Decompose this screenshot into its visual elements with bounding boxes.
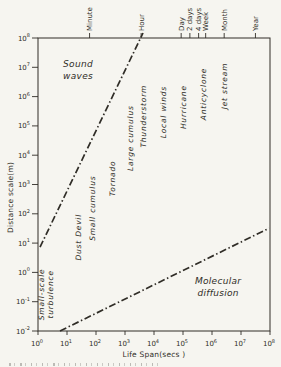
y-axis-title: Distance scale(m) xyxy=(6,138,15,258)
label-hurricane: Hurricane xyxy=(179,85,188,129)
x-tick-label: 102 xyxy=(89,338,101,349)
top-tick-label-year: Year xyxy=(252,16,260,32)
y-tick-label: 105 xyxy=(18,120,30,131)
x-tick-label: 105 xyxy=(176,338,188,349)
label-dust-devil: Dust Devil xyxy=(74,214,83,261)
y-tick-label: 107 xyxy=(18,61,30,72)
label-anticyclone: Anticyclone xyxy=(199,68,208,121)
y-tick-label: 103 xyxy=(18,179,30,190)
top-tick-label-week: Week xyxy=(202,11,210,31)
x-tick-label: 103 xyxy=(118,338,130,349)
label-thunderstorm: Thunderstorm xyxy=(139,85,148,148)
top-tick-label-month: Month xyxy=(221,9,229,31)
label-local-winds: Local winds xyxy=(159,86,168,138)
top-tick-label-day: Day xyxy=(178,17,186,31)
figure-page: 10810710610510410310210110010-110-210010… xyxy=(0,0,281,367)
x-tick-label: 104 xyxy=(147,338,159,349)
y-tick-label: 10-1 xyxy=(16,296,30,307)
y-tick-label: 10-2 xyxy=(16,325,30,336)
label-small-scale-turbulence: Small-scaleturbulence xyxy=(37,269,55,321)
cropped-caption-remnant xyxy=(9,363,159,366)
x-tick-label: 100 xyxy=(31,338,43,349)
x-tick-label: 108 xyxy=(263,338,275,349)
x-tick-label: 101 xyxy=(60,338,72,349)
y-tick-label: 104 xyxy=(18,149,30,160)
label-small-cumulus: Small cumulus xyxy=(88,176,97,241)
label-large-cumulus: Large cumulus xyxy=(126,105,135,171)
top-tick-label-2-days: 2 days xyxy=(186,7,194,31)
y-tick-label: 106 xyxy=(18,91,30,102)
y-tick-label: 102 xyxy=(18,208,30,219)
top-tick-label-minute: Minute xyxy=(86,7,94,31)
x-tick-label: 106 xyxy=(205,338,217,349)
y-tick-label: 108 xyxy=(18,32,30,43)
chart-canvas: 10810710610510410310210110010-110-210010… xyxy=(0,0,281,367)
label-molecular-diffusion: Moleculardiffusion xyxy=(195,276,242,298)
top-tick-label-hour: Hour xyxy=(138,14,146,31)
label-jet-stream: Jet stream xyxy=(220,63,229,112)
x-tick-label: 107 xyxy=(234,338,246,349)
label-tornado: Tornado xyxy=(108,161,117,197)
x-axis-title: Life Span(secs ) xyxy=(38,350,270,359)
y-tick-label: 100 xyxy=(18,266,30,277)
y-tick-label: 101 xyxy=(18,237,30,248)
label-sound-waves: Soundwaves xyxy=(63,59,93,81)
plot-frame xyxy=(38,38,270,331)
